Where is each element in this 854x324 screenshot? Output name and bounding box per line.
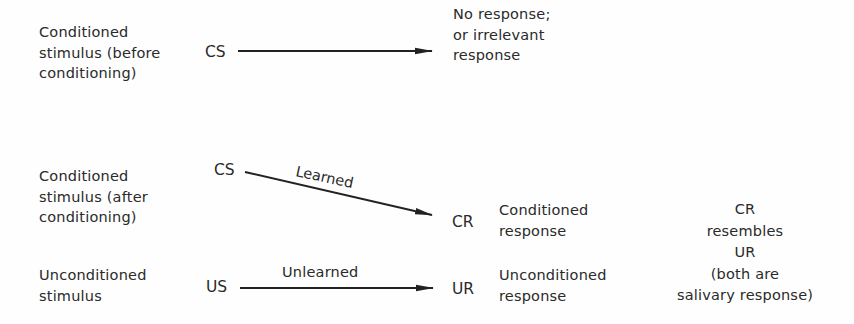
label-line: response [453, 45, 550, 66]
label-line: response [499, 221, 589, 242]
label-line: stimulus (after [39, 187, 148, 208]
cs-after-code: CS [214, 160, 235, 180]
label-line: Conditioned [499, 200, 589, 221]
response-label-before: No response; or irrelevant response [453, 4, 550, 66]
unlearned-label: Unlearned [282, 262, 358, 283]
label-line: Unconditioned [499, 265, 607, 286]
label-line: stimulus (before [39, 43, 161, 64]
cr-code: CR [452, 212, 474, 232]
stimulus-label-before: Conditioned stimulus (before conditionin… [39, 22, 161, 84]
label-line: Unconditioned [39, 265, 147, 286]
note-line: UR [665, 242, 825, 264]
label-line: conditioning) [39, 63, 161, 84]
cs-before-code: CS [205, 42, 226, 62]
ur-code: UR [452, 279, 474, 299]
note-line: (both are [665, 264, 825, 286]
label-line: No response; [453, 4, 550, 25]
label-line: Conditioned [39, 22, 161, 43]
response-label-unconditioned: Unconditioned response [499, 265, 607, 306]
conditioning-diagram: Conditioned stimulus (before conditionin… [0, 0, 854, 324]
stimulus-label-after: Conditioned stimulus (after conditioning… [39, 166, 148, 228]
stimulus-label-unconditioned: Unconditioned stimulus [39, 265, 147, 306]
note-line: salivary response) [665, 285, 825, 307]
label-line: Conditioned [39, 166, 148, 187]
resemblance-note: CR resembles UR (both are salivary respo… [665, 199, 825, 307]
response-label-conditioned: Conditioned response [499, 200, 589, 241]
us-code: US [206, 277, 227, 297]
label-line: conditioning) [39, 207, 148, 228]
label-line: or irrelevant [453, 25, 550, 46]
label-line: stimulus [39, 286, 147, 307]
note-line: resembles [665, 221, 825, 243]
note-line: CR [665, 199, 825, 221]
label-line: response [499, 286, 607, 307]
